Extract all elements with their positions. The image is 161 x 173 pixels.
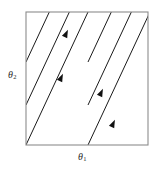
torus-diagram-canvas [0, 0, 161, 173]
torus-square-fill [26, 12, 148, 145]
torus-phase-portrait-figure: θ2 θ1 [0, 0, 161, 173]
x-axis-label-theta1: θ1 [78, 152, 87, 163]
theta1-subscript: 1 [83, 155, 87, 162]
y-axis-label-theta2: θ2 [8, 70, 17, 81]
theta2-subscript: 2 [13, 73, 17, 80]
